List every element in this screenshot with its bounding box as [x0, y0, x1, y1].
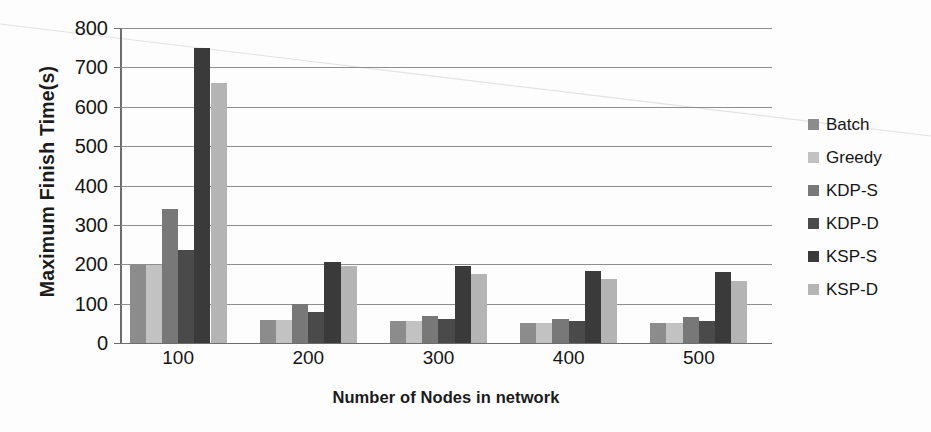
chart-legend: BatchGreedyKDP-SKDP-DKSP-SKSP-D: [808, 108, 928, 306]
legend-swatch-icon-ksp-d: [808, 284, 819, 295]
x-tick-label-100: 100: [162, 347, 194, 369]
bar-kdp-d-400: [569, 321, 585, 343]
legend-swatch-icon-ksp-s: [808, 251, 819, 262]
bar-ksp-s-100: [194, 48, 210, 343]
bar-kdp-s-100: [162, 209, 178, 343]
legend-item-greedy: Greedy: [808, 141, 928, 174]
x-tick-label-500: 500: [683, 347, 715, 369]
y-tick-700: [114, 67, 121, 68]
legend-item-ksp-s: KSP-S: [808, 240, 928, 273]
y-tick-500: [114, 146, 121, 147]
bar-greedy-500: [666, 323, 682, 343]
bar-ksp-d-300: [471, 274, 487, 343]
legend-label: Greedy: [826, 148, 882, 168]
legend-label: KDP-S: [826, 181, 878, 201]
bar-kdp-d-300: [438, 319, 454, 343]
legend-item-kdp-s: KDP-S: [808, 174, 928, 207]
legend-item-kdp-d: KDP-D: [808, 207, 928, 240]
legend-swatch-icon-kdp-d: [808, 218, 819, 229]
bar-batch-400: [520, 323, 536, 343]
bar-batch-500: [650, 323, 666, 343]
bar-group-400: [520, 28, 617, 343]
legend-label: KDP-D: [826, 214, 879, 234]
bar-ksp-d-200: [341, 266, 357, 343]
bar-ksp-s-500: [715, 272, 731, 343]
y-tick-label-300: 300: [75, 213, 108, 236]
y-tick-label-400: 400: [75, 174, 108, 197]
y-tick-200: [114, 264, 121, 265]
y-tick-label-800: 800: [75, 17, 108, 40]
bar-ksp-s-200: [324, 262, 340, 343]
legend-swatch-icon-greedy: [808, 152, 819, 163]
y-tick-100: [114, 304, 121, 305]
bar-batch-100: [130, 265, 146, 343]
legend-label: KSP-D: [826, 280, 878, 300]
legend-swatch-icon-batch: [808, 119, 819, 130]
y-tick-0: [114, 343, 121, 344]
y-tick-400: [114, 186, 121, 187]
bar-group-500: [650, 28, 747, 343]
y-tick-label-500: 500: [75, 135, 108, 158]
bar-batch-200: [260, 320, 276, 343]
bar-kdp-s-400: [552, 319, 568, 343]
bar-greedy-100: [146, 265, 162, 343]
bar-greedy-200: [276, 320, 292, 343]
bar-group-300: [390, 28, 487, 343]
bar-ksp-d-400: [601, 279, 617, 343]
y-tick-600: [114, 107, 121, 108]
bar-batch-300: [390, 321, 406, 343]
bar-kdp-d-500: [699, 321, 715, 343]
bar-ksp-d-100: [211, 83, 227, 343]
bar-kdp-s-300: [422, 316, 438, 343]
legend-label: KSP-S: [826, 247, 877, 267]
bar-group-200: [260, 28, 357, 343]
x-tick-label-300: 300: [423, 347, 455, 369]
bar-ksp-s-300: [455, 266, 471, 343]
y-tick-label-0: 0: [97, 332, 108, 355]
y-tick-label-600: 600: [75, 95, 108, 118]
legend-item-ksp-d: KSP-D: [808, 273, 928, 306]
bar-kdp-d-100: [178, 250, 194, 343]
bar-greedy-300: [406, 321, 422, 343]
gridline-0: [121, 343, 772, 344]
legend-swatch-icon-kdp-s: [808, 185, 819, 196]
bar-kdp-s-500: [683, 317, 699, 343]
y-tick-label-200: 200: [75, 253, 108, 276]
bar-kdp-s-200: [292, 304, 308, 343]
x-tick-label-200: 200: [292, 347, 324, 369]
x-tick-label-400: 400: [553, 347, 585, 369]
legend-label: Batch: [826, 115, 869, 135]
y-tick-300: [114, 225, 121, 226]
y-tick-label-700: 700: [75, 56, 108, 79]
legend-item-batch: Batch: [808, 108, 928, 141]
bar-ksp-s-400: [585, 271, 601, 343]
plot-area: 0100200300400500600700800 10020030040050…: [121, 28, 772, 343]
y-axis-title: Maximum Finish Time(s): [36, 22, 59, 342]
bar-chart-figure: Maximum Finish Time(s) Number of Nodes i…: [0, 0, 931, 432]
bar-kdp-d-200: [308, 312, 324, 343]
y-tick-label-100: 100: [75, 292, 108, 315]
bar-ksp-d-500: [731, 281, 747, 343]
bar-group-100: [130, 28, 227, 343]
bar-greedy-400: [536, 323, 552, 343]
y-tick-800: [114, 28, 121, 29]
x-axis-title: Number of Nodes in network: [120, 388, 772, 407]
